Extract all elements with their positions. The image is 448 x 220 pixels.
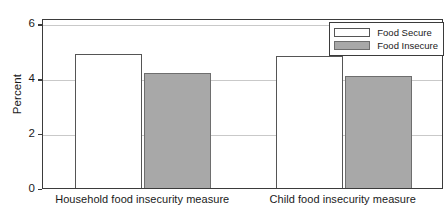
- legend-swatch-food-secure: [334, 28, 370, 37]
- bar-chart: Percent 0246 Household food insecurity m…: [0, 0, 448, 220]
- x-axis-category-label: Household food insecurity measure: [32, 193, 252, 205]
- bar: [144, 73, 211, 188]
- chart-legend: Food Secure Food Insecure: [329, 22, 444, 56]
- y-axis-tick: 0: [0, 189, 42, 190]
- y-axis-tick-label: 6: [29, 17, 35, 30]
- y-axis-tick-label: 2: [29, 127, 35, 140]
- y-axis-tick: 2: [0, 134, 42, 135]
- tick-mark: [38, 189, 42, 190]
- legend-item-food-secure: Food Secure: [334, 26, 438, 39]
- bar: [75, 54, 142, 188]
- legend-swatch-food-insecure: [334, 41, 370, 50]
- y-axis-tick-label: 4: [29, 72, 35, 85]
- legend-item-food-insecure: Food Insecure: [334, 39, 438, 52]
- y-axis-title: Percent: [11, 44, 23, 144]
- x-axis-category-label: Child food insecurity measure: [233, 193, 448, 205]
- bar: [276, 56, 343, 188]
- y-axis-tick: 6: [0, 24, 42, 25]
- bar: [345, 76, 412, 188]
- y-axis-tick: 4: [0, 79, 42, 80]
- legend-label-food-secure: Food Secure: [377, 27, 431, 38]
- legend-label-food-insecure: Food Insecure: [377, 40, 438, 51]
